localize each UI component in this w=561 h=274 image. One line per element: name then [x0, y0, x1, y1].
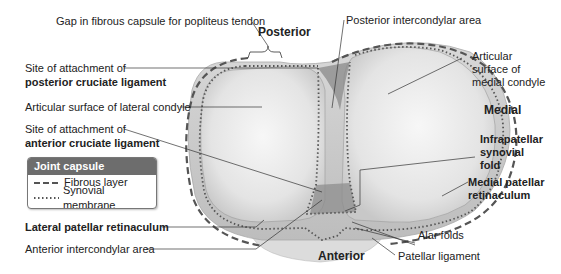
lateral-condyle-surface	[201, 66, 325, 222]
label-medial-condyle-line3: medial condyle	[472, 76, 545, 89]
label-lateral-condyle: Articular surface of lateral condyle	[25, 101, 191, 114]
legend-title: Joint capsule	[28, 158, 156, 175]
label-alar-folds: Alar folds	[418, 229, 464, 242]
label-acl-line2: anterior cruciate ligament	[25, 137, 160, 150]
tibial-plateau-diagram: Posterior Anterior Medial Gap in fibrous…	[0, 0, 561, 274]
label-infrapatellar-line3: fold	[480, 159, 500, 172]
label-posterior-intercondylar: Posterior intercondylar area	[346, 14, 481, 27]
label-infrapatellar-line2: synovial	[480, 146, 524, 159]
label-acl-line1: Site of attachment of	[25, 123, 126, 136]
label-anterior-intercondylar: Anterior intercondylar area	[25, 243, 155, 256]
label-posterior: Posterior	[258, 26, 311, 39]
label-medial-condyle-line1: Articular	[472, 50, 512, 63]
label-pcl-line1: Site of attachment of	[25, 62, 126, 75]
popliteus-gap-brace	[248, 46, 282, 58]
dashed-line-icon	[34, 180, 60, 186]
label-anterior: Anterior	[318, 250, 365, 263]
label-medial-condyle-line2: surface of	[472, 63, 520, 76]
label-pcl-line2: posterior cruciate ligament	[25, 76, 166, 89]
label-infrapatellar-line1: Infrapatellar	[480, 133, 543, 146]
label-lateral-retinaculum: Lateral patellar retinaculum	[25, 221, 169, 234]
label-gap-popliteus: Gap in fibrous capsule for popliteus ten…	[56, 15, 265, 28]
legend-item-synovial: Synovial membrane	[28, 190, 156, 205]
label-patellar-ligament: Patellar ligament	[398, 250, 480, 263]
label-medial-retinaculum-line1: Medial patellar	[468, 176, 544, 189]
legend-label-synovial: Synovial membrane	[63, 183, 156, 210]
label-medial: Medial	[484, 104, 521, 117]
label-medial-retinaculum-line2: retinaculum	[468, 189, 530, 202]
joint-capsule-legend: Joint capsule Fibrous layer Synovial mem…	[27, 157, 157, 209]
dotted-line-icon	[34, 195, 59, 201]
